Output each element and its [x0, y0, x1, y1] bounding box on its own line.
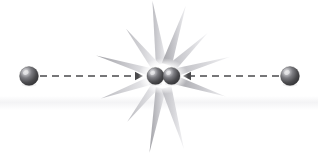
right-particle-body	[281, 67, 300, 86]
diagram-canvas: Two spheres move toward each other along…	[0, 0, 318, 155]
collision-particle-right-body	[163, 67, 180, 84]
left-particle-body	[20, 67, 39, 86]
collision-particle-left-body	[147, 67, 164, 84]
collision-diagram: Two spheres move toward each other along…	[0, 0, 318, 155]
